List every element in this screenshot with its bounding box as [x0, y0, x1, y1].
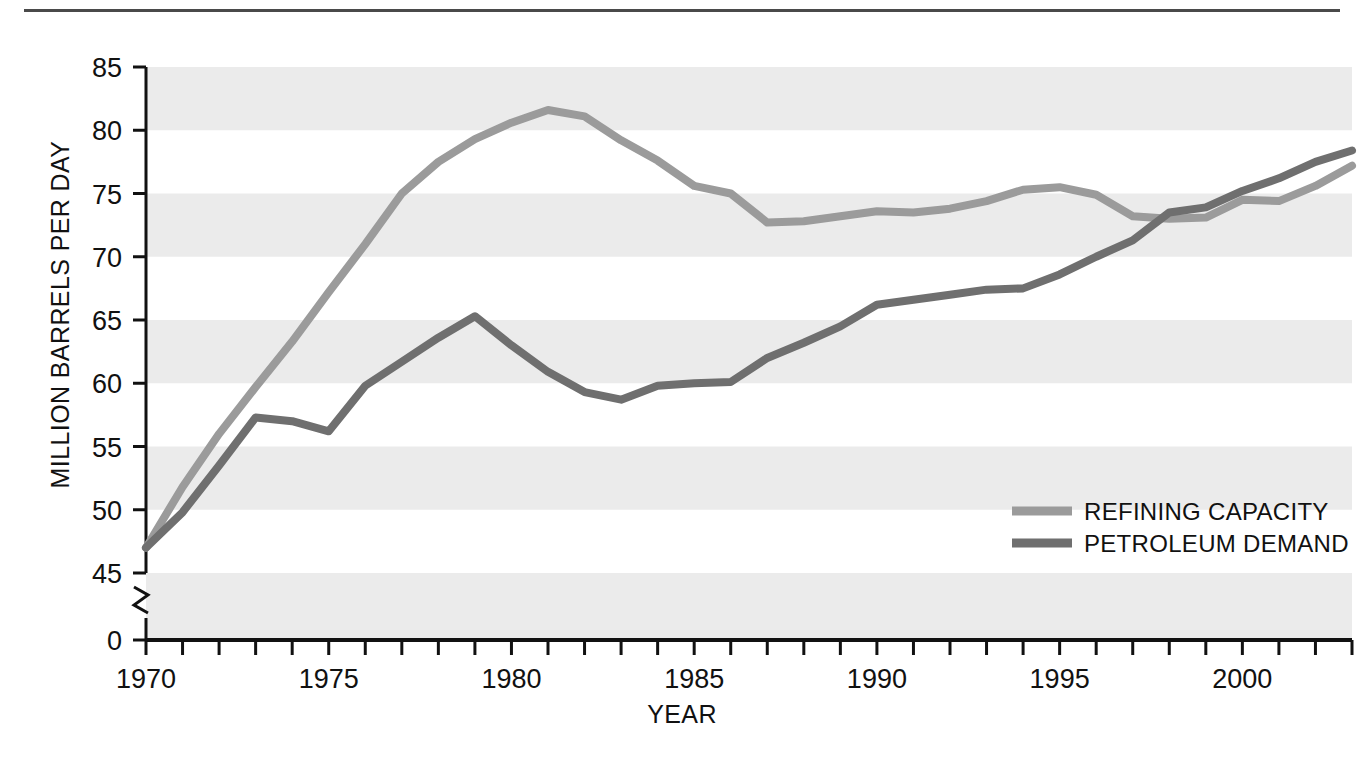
x-tick-label: 2000	[1212, 664, 1272, 694]
y-ticks: 4550556065707580850	[92, 53, 146, 656]
legend: REFINING CAPACITYPETROLEUM DEMAND	[1012, 498, 1349, 557]
y-tick-label: 45	[92, 559, 122, 589]
y-tick-label: 50	[92, 496, 122, 526]
y-tick-label: 65	[92, 306, 122, 336]
grid-band	[146, 67, 1352, 130]
y-tick-label: 60	[92, 369, 122, 399]
y-tick-label: 85	[92, 53, 122, 83]
x-tick-label: 1975	[299, 664, 359, 694]
x-tick-label: 1980	[481, 664, 541, 694]
y-tick-label: 55	[92, 433, 122, 463]
y-tick-label: 75	[92, 180, 122, 210]
x-ticks: 1970197519801985199019952000	[116, 640, 1352, 694]
y-tick-label: 80	[92, 116, 122, 146]
x-tick-label: 1970	[116, 664, 176, 694]
grid-band-base	[146, 573, 1352, 640]
x-tick-label: 1990	[847, 664, 907, 694]
y-axis-break-icon	[134, 587, 148, 613]
y-tick-label: 70	[92, 243, 122, 273]
legend-label-1: PETROLEUM DEMAND	[1084, 530, 1349, 557]
x-tick-label: 1995	[1030, 664, 1090, 694]
x-tick-label: 1985	[664, 664, 724, 694]
line-chart-plot: 4550556065707580850197019751980198519901…	[0, 0, 1364, 767]
figure-container: MILLION BARRELS PER DAY YEAR 45505560657…	[0, 0, 1364, 767]
y-tick-label-zero: 0	[107, 626, 122, 656]
legend-label-0: REFINING CAPACITY	[1084, 498, 1329, 525]
